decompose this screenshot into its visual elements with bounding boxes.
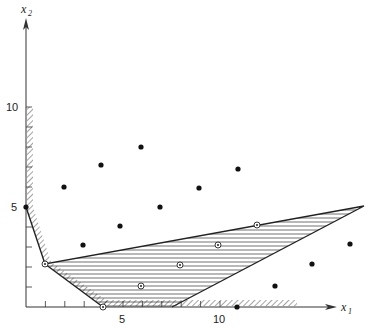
x-axis-label-sub: 1 [348, 307, 352, 316]
y-axis-hatch [27, 107, 33, 207]
diagram-canvas: 5 10 5 10 x 1 x 2 [0, 0, 374, 328]
left-edge-hatch [26, 207, 51, 264]
integer-programming-diagram: 5 10 5 10 x 1 x 2 [0, 0, 374, 328]
y-axis-label-sub: 2 [28, 9, 32, 18]
x-tick-5: 5 [119, 313, 125, 325]
y-axis-label: x [20, 2, 27, 16]
y-tick-10: 10 [6, 101, 18, 113]
y-tick-5: 5 [11, 201, 17, 213]
x-axis-label: x [340, 300, 347, 314]
x-tick-10: 10 [213, 313, 225, 325]
feasible-region [45, 206, 364, 307]
